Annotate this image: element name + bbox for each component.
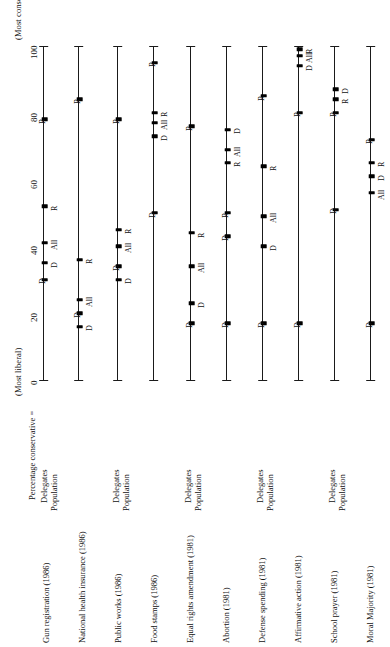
scale-axis-rule bbox=[78, 46, 79, 380]
data-point-marker bbox=[41, 205, 47, 208]
issue-label-8: School prayer (1981) bbox=[330, 571, 339, 643]
data-point-label-d: D bbox=[330, 208, 338, 214]
data-point-label-d: D bbox=[378, 175, 386, 181]
scale-cap-high bbox=[366, 46, 375, 47]
data-point-marker bbox=[76, 258, 82, 261]
data-point-label-all: All bbox=[86, 297, 94, 307]
scale-axis-rule bbox=[298, 46, 299, 380]
issue-label-4: Equal rights amendment (1981) bbox=[186, 535, 195, 643]
group-label-delegates: Delegates bbox=[256, 469, 265, 503]
group-label-delegates: Delegates bbox=[328, 469, 337, 503]
data-point-label-all: All bbox=[125, 243, 133, 253]
scale-axis-rule bbox=[370, 46, 371, 380]
issue-label-0: Gun registration (1986) bbox=[42, 563, 51, 643]
data-point-label-r: R bbox=[234, 162, 242, 167]
data-point-label-r: R bbox=[149, 62, 157, 67]
scale-cap-low bbox=[113, 380, 122, 381]
axis-tick-40: 40 bbox=[30, 246, 39, 255]
data-point-marker bbox=[151, 134, 157, 137]
data-point-marker bbox=[115, 245, 121, 248]
scale-cap-high bbox=[39, 46, 48, 47]
issue-label-5: Abortion (1981) bbox=[222, 588, 231, 643]
data-point-marker bbox=[368, 191, 374, 194]
data-point-label-d: D bbox=[222, 322, 230, 328]
data-point-marker bbox=[296, 54, 302, 57]
axis-title: Percentage conservative = bbox=[28, 411, 37, 500]
data-point-label-d: D bbox=[234, 128, 242, 134]
data-point-marker bbox=[151, 121, 157, 124]
data-point-label-d: D bbox=[258, 322, 266, 328]
data-point-label-r: R bbox=[366, 139, 374, 144]
scale-axis-rule bbox=[43, 46, 44, 380]
scale-axis-rule bbox=[117, 46, 118, 380]
group-label-population: Population bbox=[122, 474, 131, 511]
group-label-population: Population bbox=[266, 474, 275, 511]
data-point-label-all: All bbox=[234, 146, 242, 156]
data-point-label-d: D bbox=[294, 322, 302, 328]
axis-tick-20: 20 bbox=[30, 313, 39, 322]
data-point-label-all: All bbox=[378, 190, 386, 200]
data-point-label-d: D bbox=[342, 88, 350, 94]
data-point-label-r: R bbox=[74, 99, 82, 104]
axis-note-most-conservative: (Most conservative) bbox=[14, 0, 23, 40]
issue-label-6: Defense spending (1981) bbox=[258, 558, 267, 643]
data-point-label-d: D bbox=[86, 325, 94, 331]
group-label-population: Population bbox=[338, 474, 347, 511]
data-point-label-r: R bbox=[39, 119, 47, 124]
data-point-label-d: D bbox=[306, 65, 314, 71]
scale-cap-high bbox=[222, 46, 231, 47]
issue-label-1: National health insurance (1986) bbox=[78, 531, 87, 643]
axis-tick-0: 0 bbox=[30, 381, 39, 386]
group-label-population: Population bbox=[194, 474, 203, 511]
data-point-label-d: D bbox=[125, 279, 133, 285]
data-point-marker bbox=[115, 228, 121, 231]
issue-label-7: Affirmative action (1981) bbox=[294, 555, 303, 643]
data-point-marker bbox=[188, 231, 194, 234]
data-point-marker bbox=[224, 148, 230, 151]
data-point-label-r: R bbox=[125, 229, 133, 234]
data-point-label-r: R bbox=[222, 212, 230, 217]
scale-cap-low bbox=[222, 380, 231, 381]
data-point-label-d: D bbox=[198, 302, 206, 308]
data-point-marker bbox=[368, 175, 374, 178]
data-point-marker bbox=[332, 88, 338, 91]
data-point-label-d: D bbox=[39, 279, 47, 285]
data-point-label-r: R bbox=[51, 205, 59, 210]
group-label-delegates: Delegates bbox=[40, 469, 49, 503]
axis-note-most-liberal: (Most liberal) bbox=[14, 348, 23, 396]
scale-cap-high bbox=[330, 46, 339, 47]
data-point-marker bbox=[332, 98, 338, 101]
scale-cap-low bbox=[149, 380, 158, 381]
data-point-label-d: D bbox=[222, 235, 230, 241]
scale-cap-high bbox=[113, 46, 122, 47]
data-point-label-d: D bbox=[161, 135, 169, 141]
scale-cap-high bbox=[74, 46, 83, 47]
data-point-label-r: R bbox=[161, 112, 169, 117]
group-label-delegates: Delegates bbox=[184, 469, 193, 503]
data-point-label-r: R bbox=[258, 95, 266, 100]
data-point-marker bbox=[76, 298, 82, 301]
data-point-marker bbox=[188, 265, 194, 268]
data-point-label-all: All bbox=[198, 263, 206, 273]
scale-cap-high bbox=[258, 46, 267, 47]
scale-cap-high bbox=[186, 46, 195, 47]
data-point-label-d: D bbox=[186, 322, 194, 328]
data-point-marker bbox=[115, 278, 121, 281]
scale-cap-low bbox=[258, 380, 267, 381]
scale-cap-low bbox=[330, 380, 339, 381]
data-point-label-r: R bbox=[342, 99, 350, 104]
data-point-marker bbox=[76, 325, 82, 328]
figure-root: (Most conservative) (Most liberal) Perce… bbox=[0, 0, 390, 647]
data-point-marker bbox=[188, 301, 194, 304]
data-point-label-r: R bbox=[198, 232, 206, 237]
data-point-label-all: All bbox=[306, 53, 314, 63]
data-point-label-r: R bbox=[378, 162, 386, 167]
data-point-label-all: All bbox=[51, 240, 59, 250]
issue-label-3: Food stamps (1986) bbox=[150, 575, 159, 643]
data-point-label-r: R bbox=[270, 165, 278, 170]
data-point-label-all: All bbox=[270, 213, 278, 223]
data-point-marker bbox=[41, 261, 47, 264]
data-point-label-r: R bbox=[330, 112, 338, 117]
data-point-marker bbox=[260, 165, 266, 168]
axis-tick-60: 60 bbox=[30, 180, 39, 189]
